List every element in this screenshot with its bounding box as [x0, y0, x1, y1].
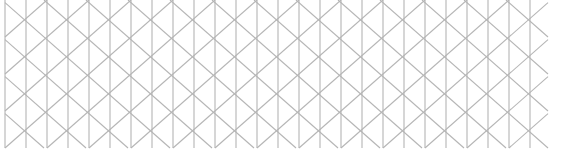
lattice-svg: [0, 0, 563, 157]
lattice-canvas: [0, 0, 563, 157]
